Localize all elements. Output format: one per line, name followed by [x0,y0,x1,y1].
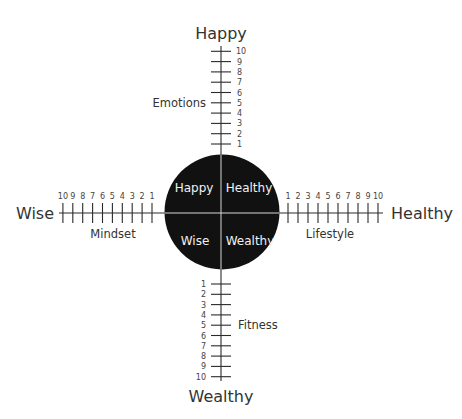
tick: 8 [211,68,242,77]
svg-text:1: 1 [237,140,242,149]
tick: 3 [201,301,231,310]
svg-text:10: 10 [58,192,68,201]
tick: 1 [285,192,290,223]
svg-text:8: 8 [237,68,242,77]
tick: 5 [211,99,242,108]
svg-text:6: 6 [100,192,105,201]
tick: 9 [201,362,231,371]
circle-shape [165,155,280,270]
svg-text:2: 2 [237,130,242,139]
axis-name-fitness: Fitness [238,318,278,332]
svg-text:10: 10 [373,192,383,201]
quadrant-happy: Happy [175,181,214,195]
tick: 2 [295,192,300,223]
svg-text:4: 4 [315,192,320,201]
svg-text:5: 5 [201,321,206,330]
tick: 4 [315,192,320,223]
tick: 10 [196,373,231,382]
svg-text:9: 9 [237,58,242,67]
tick: 1 [201,280,231,289]
svg-text:3: 3 [201,301,206,310]
svg-text:8: 8 [201,352,206,361]
quadrant-diagram: 1 2 3 4 5 6 7 8 9 10 1 2 3 4 5 6 7 8 9 1… [0,0,462,419]
svg-text:9: 9 [365,192,370,201]
tick: 2 [140,192,145,223]
tick: 2 [211,130,242,139]
svg-text:6: 6 [335,192,340,201]
top-axis-ticks: 1 2 3 4 5 6 7 8 9 10 [211,47,246,149]
tick: 3 [211,119,242,128]
svg-text:2: 2 [295,192,300,201]
quadrant-wealthy: Wealthy [226,234,275,248]
tick: 3 [130,192,135,223]
tick: 7 [90,192,95,223]
svg-text:10: 10 [196,373,206,382]
svg-text:3: 3 [305,192,310,201]
pole-label-wealthy: Wealthy [189,387,254,406]
axis-name-mindset: Mindset [90,227,136,241]
svg-text:3: 3 [130,192,135,201]
svg-text:3: 3 [237,119,242,128]
axis-name-lifestyle: Lifestyle [306,227,354,241]
svg-text:1: 1 [201,280,206,289]
svg-text:8: 8 [80,192,85,201]
tick: 10 [211,47,246,56]
tick: 1 [149,192,154,223]
tick: 9 [211,58,242,67]
pole-label-happy: Happy [195,24,247,43]
svg-text:5: 5 [237,99,242,108]
tick: 6 [211,89,242,98]
svg-text:2: 2 [140,192,145,201]
tick: 3 [305,192,310,223]
svg-text:7: 7 [237,78,242,87]
svg-text:9: 9 [70,192,75,201]
svg-text:7: 7 [90,192,95,201]
tick: 5 [110,192,115,223]
tick: 6 [201,332,231,341]
pole-label-healthy: Healthy [391,204,453,223]
tick: 2 [201,290,231,299]
tick: 5 [201,321,231,330]
tick: 9 [70,192,75,223]
tick: 5 [325,192,330,223]
svg-text:1: 1 [285,192,290,201]
svg-text:1: 1 [149,192,154,201]
svg-text:5: 5 [110,192,115,201]
svg-text:9: 9 [201,362,206,371]
pole-label-wise: Wise [16,204,54,223]
tick: 7 [211,78,242,87]
svg-text:4: 4 [201,311,206,320]
tick: 6 [335,192,340,223]
svg-text:7: 7 [345,192,350,201]
svg-text:7: 7 [201,342,206,351]
tick: 7 [201,342,231,351]
tick: 9 [365,192,370,223]
right-axis-ticks: 1 2 3 4 5 6 7 8 9 10 [285,192,383,223]
tick: 8 [80,192,85,223]
svg-text:5: 5 [325,192,330,201]
tick: 6 [100,192,105,223]
svg-text:8: 8 [355,192,360,201]
quadrant-wise: Wise [181,234,210,248]
svg-text:6: 6 [237,89,242,98]
tick: 7 [345,192,350,223]
tick: 10 [373,192,383,223]
svg-text:10: 10 [236,47,246,56]
quadrant-healthy: Healthy [226,181,273,195]
left-axis-ticks: 1 2 3 4 5 6 7 8 9 10 [58,192,155,223]
svg-text:2: 2 [201,290,206,299]
center-circle: Happy Healthy Wise Wealthy [165,155,280,270]
bottom-axis-ticks: 1 2 3 4 5 6 7 8 9 10 [196,280,231,382]
tick: 10 [58,192,68,223]
svg-text:4: 4 [120,192,125,201]
tick: 4 [211,109,242,118]
svg-text:4: 4 [237,109,242,118]
tick: 4 [201,311,231,320]
axis-name-emotions: Emotions [152,96,206,110]
tick: 1 [211,140,242,149]
tick: 8 [201,352,231,361]
svg-text:6: 6 [201,332,206,341]
tick: 4 [120,192,125,223]
tick: 8 [355,192,360,223]
